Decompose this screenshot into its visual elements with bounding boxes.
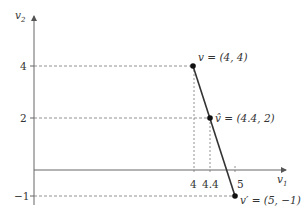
point-v-label: v = (4, 4) [198, 51, 248, 63]
projection-line [193, 66, 235, 196]
x-tick-label-4: 4 [190, 178, 197, 190]
y-axis-label: v2 [15, 9, 26, 24]
x-axis-label: v1 [277, 173, 287, 188]
y-tick-label-neg1: −1 [14, 190, 29, 202]
y-tick-label-2: 2 [20, 112, 27, 124]
x-tick-label-5: 5 [237, 178, 244, 190]
point-v-prime [232, 193, 238, 199]
projection-diagram: v2 v1 4 2 −1 4 4.4 5 v = (4, 4) v̂ = (4.… [0, 0, 307, 218]
point-v-hat [207, 115, 213, 121]
point-v-hat-label: v̂ = (4.4, 2) [215, 112, 275, 124]
y-tick-label-4: 4 [20, 60, 27, 72]
point-v-prime-label: v′ = (5, −1) [240, 194, 301, 206]
x-tick-label-4-4: 4.4 [202, 178, 219, 190]
point-v [190, 63, 196, 69]
